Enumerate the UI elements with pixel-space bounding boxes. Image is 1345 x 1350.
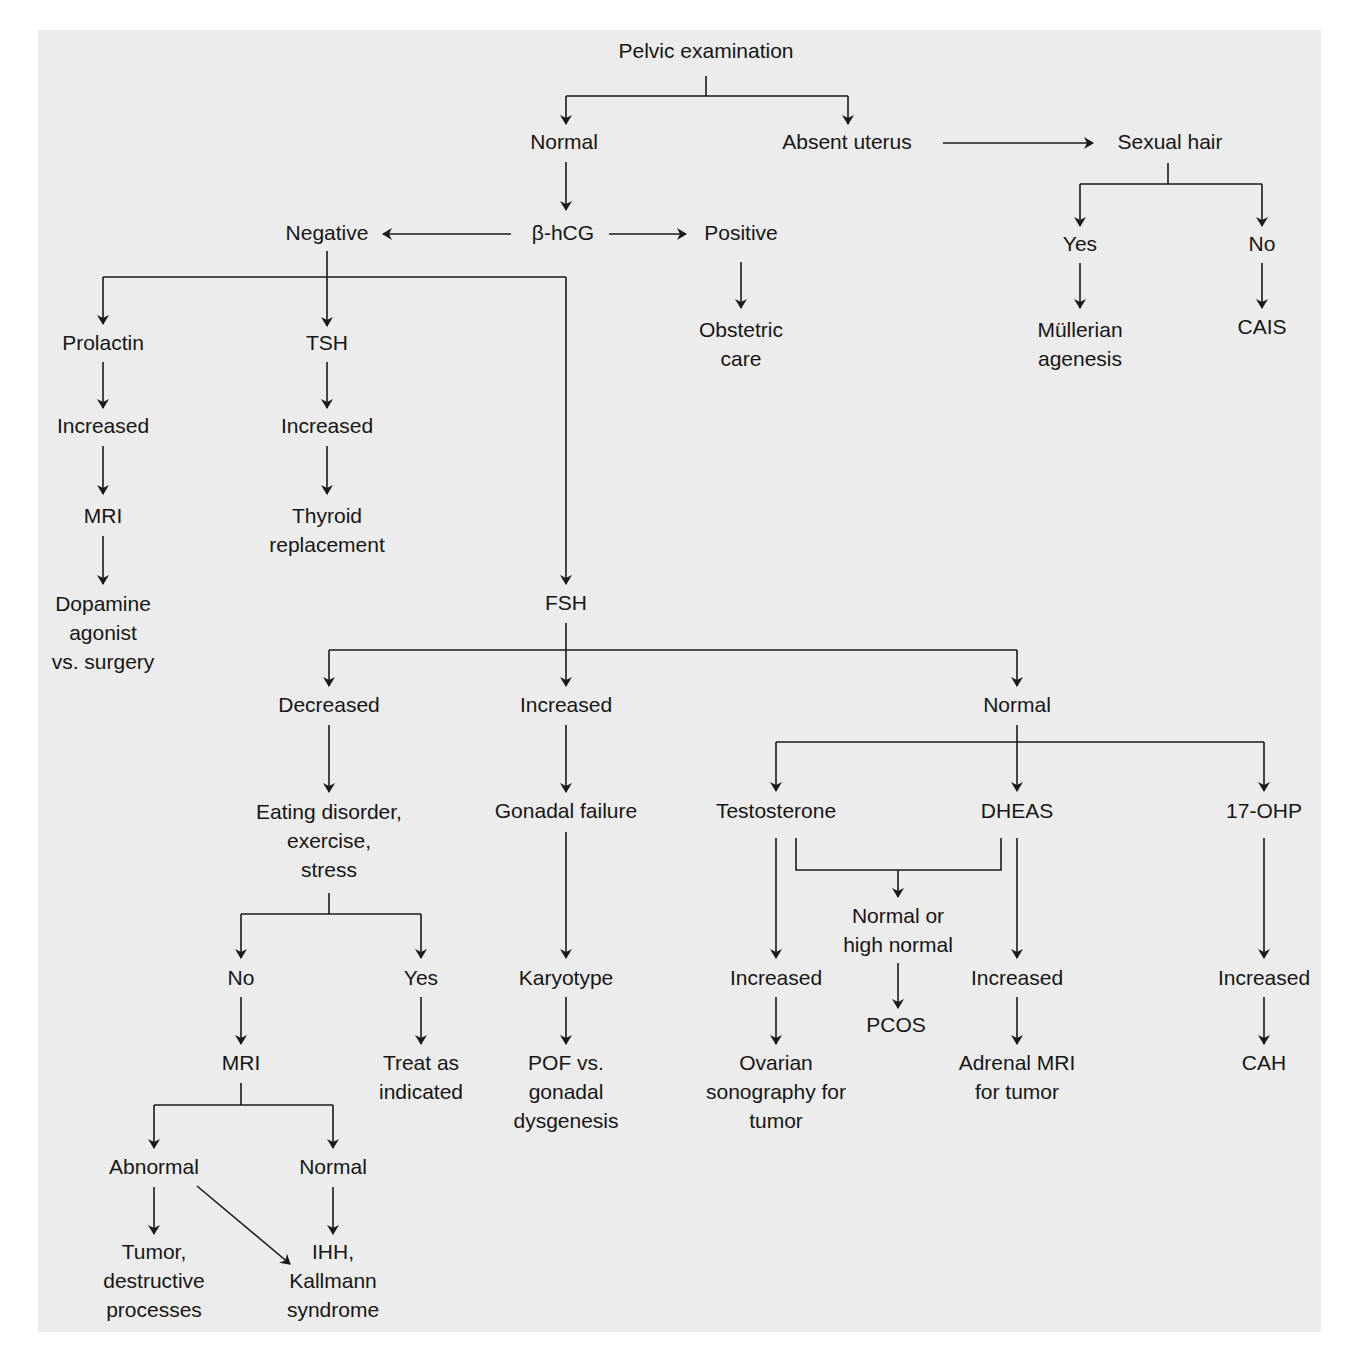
svg-text:Thyroid: Thyroid bbox=[292, 504, 362, 527]
svg-text:PCOS: PCOS bbox=[866, 1013, 926, 1036]
svg-text:sonography for: sonography for bbox=[706, 1080, 846, 1103]
svg-text:Adrenal MRI: Adrenal MRI bbox=[959, 1051, 1076, 1074]
svg-text:MRI: MRI bbox=[84, 504, 123, 527]
node-tumor-destructive: Tumor, destructive processes bbox=[103, 1240, 205, 1321]
node-cah: CAH bbox=[1242, 1051, 1286, 1074]
svg-text:for tumor: for tumor bbox=[975, 1080, 1059, 1103]
node-normal-exam: Normal bbox=[530, 130, 598, 153]
node-testosterone-increased: Increased bbox=[730, 966, 822, 989]
svg-text:agonist: agonist bbox=[69, 621, 137, 644]
svg-text:MRI: MRI bbox=[222, 1051, 261, 1074]
svg-text:Treat as: Treat as bbox=[383, 1051, 459, 1074]
node-fsh-normal: Normal bbox=[983, 693, 1051, 716]
node-fsh-decreased: Decreased bbox=[278, 693, 380, 716]
svg-text:Testosterone: Testosterone bbox=[716, 799, 836, 822]
svg-text:17-OHP: 17-OHP bbox=[1226, 799, 1302, 822]
svg-text:Prolactin: Prolactin bbox=[62, 331, 144, 354]
svg-text:CAIS: CAIS bbox=[1237, 315, 1286, 338]
node-positive: Positive bbox=[704, 221, 778, 244]
svg-text:indicated: indicated bbox=[379, 1080, 463, 1103]
svg-text:gonadal: gonadal bbox=[529, 1080, 604, 1103]
svg-text:DHEAS: DHEAS bbox=[981, 799, 1053, 822]
svg-text:Negative: Negative bbox=[286, 221, 369, 244]
svg-text:FSH: FSH bbox=[545, 591, 587, 614]
node-17-ohp-increased: Increased bbox=[1218, 966, 1310, 989]
svg-text:stress: stress bbox=[301, 858, 357, 881]
svg-text:Ovarian: Ovarian bbox=[739, 1051, 813, 1074]
node-pcos: PCOS bbox=[866, 1013, 926, 1036]
node-treat-as-indicated: Treat as indicated bbox=[379, 1051, 463, 1103]
node-sexual-hair-no: No bbox=[1249, 232, 1276, 255]
node-fsh-increased: Increased bbox=[520, 693, 612, 716]
node-dheas-increased: Increased bbox=[971, 966, 1063, 989]
svg-text:high normal: high normal bbox=[843, 933, 953, 956]
svg-text:replacement: replacement bbox=[269, 533, 385, 556]
svg-text:TSH: TSH bbox=[306, 331, 348, 354]
svg-text:Yes: Yes bbox=[1063, 232, 1097, 255]
node-gonadal-failure: Gonadal failure bbox=[495, 799, 637, 822]
svg-text:IHH,: IHH, bbox=[312, 1240, 354, 1263]
svg-text:processes: processes bbox=[106, 1298, 202, 1321]
svg-text:Increased: Increased bbox=[520, 693, 612, 716]
svg-text:Increased: Increased bbox=[730, 966, 822, 989]
svg-text:No: No bbox=[1249, 232, 1276, 255]
svg-text:vs. surgery: vs. surgery bbox=[52, 650, 155, 673]
node-absent-uterus: Absent uterus bbox=[782, 130, 912, 153]
svg-text:Sexual hair: Sexual hair bbox=[1117, 130, 1222, 153]
node-17-ohp: 17-OHP bbox=[1226, 799, 1302, 822]
node-normal-or-high-normal: Normal or high normal bbox=[843, 904, 953, 956]
node-eating-no: No bbox=[228, 966, 255, 989]
svg-text:syndrome: syndrome bbox=[287, 1298, 379, 1321]
svg-text:Normal: Normal bbox=[983, 693, 1051, 716]
svg-text:Kallmann: Kallmann bbox=[289, 1269, 377, 1292]
node-pelvic-examination: Pelvic examination bbox=[618, 39, 793, 62]
node-fsh: FSH bbox=[545, 591, 587, 614]
svg-text:Increased: Increased bbox=[1218, 966, 1310, 989]
svg-text:Dopamine: Dopamine bbox=[55, 592, 151, 615]
node-thyroid-replacement: Thyroid replacement bbox=[269, 504, 385, 556]
svg-text:Increased: Increased bbox=[281, 414, 373, 437]
node-dopamine-agonist: Dopamine agonist vs. surgery bbox=[52, 592, 155, 673]
svg-text:Gonadal failure: Gonadal failure bbox=[495, 799, 637, 822]
svg-text:Normal: Normal bbox=[530, 130, 598, 153]
node-mri-abnormal: Abnormal bbox=[109, 1155, 199, 1178]
node-cais: CAIS bbox=[1237, 315, 1286, 338]
svg-text:Tumor,: Tumor, bbox=[122, 1240, 187, 1263]
svg-text:Increased: Increased bbox=[971, 966, 1063, 989]
svg-text:Abnormal: Abnormal bbox=[109, 1155, 199, 1178]
svg-text:agenesis: agenesis bbox=[1038, 347, 1122, 370]
node-testosterone: Testosterone bbox=[716, 799, 836, 822]
node-adrenal-mri: Adrenal MRI for tumor bbox=[959, 1051, 1076, 1103]
svg-text:Eating disorder,: Eating disorder, bbox=[256, 800, 402, 823]
svg-text:Obstetric: Obstetric bbox=[699, 318, 783, 341]
svg-text:destructive: destructive bbox=[103, 1269, 205, 1292]
flowchart: Pelvic examination Normal Absent uterus … bbox=[0, 0, 1345, 1350]
svg-text:Pelvic examination: Pelvic examination bbox=[618, 39, 793, 62]
node-prolactin: Prolactin bbox=[62, 331, 144, 354]
svg-text:care: care bbox=[721, 347, 762, 370]
svg-text:Positive: Positive bbox=[704, 221, 778, 244]
svg-text:CAH: CAH bbox=[1242, 1051, 1286, 1074]
node-sexual-hair-yes: Yes bbox=[1063, 232, 1097, 255]
node-mullerian-agenesis: Müllerian agenesis bbox=[1037, 318, 1122, 370]
svg-text:exercise,: exercise, bbox=[287, 829, 371, 852]
svg-text:No: No bbox=[228, 966, 255, 989]
node-prolactin-increased: Increased bbox=[57, 414, 149, 437]
svg-text:Increased: Increased bbox=[57, 414, 149, 437]
node-no-mri: MRI bbox=[222, 1051, 261, 1074]
svg-text:Normal: Normal bbox=[299, 1155, 367, 1178]
node-ihh-kallmann: IHH, Kallmann syndrome bbox=[287, 1240, 379, 1321]
node-tsh-increased: Increased bbox=[281, 414, 373, 437]
svg-text:POF vs.: POF vs. bbox=[528, 1051, 604, 1074]
svg-text:tumor: tumor bbox=[749, 1109, 803, 1132]
svg-text:β-hCG: β-hCG bbox=[532, 221, 594, 244]
node-pof-gonadal-dysgenesis: POF vs. gonadal dysgenesis bbox=[513, 1051, 618, 1132]
node-obstetric-care: Obstetric care bbox=[699, 318, 783, 370]
node-mri-normal: Normal bbox=[299, 1155, 367, 1178]
node-prolactin-mri: MRI bbox=[84, 504, 123, 527]
node-dheas: DHEAS bbox=[981, 799, 1053, 822]
node-karyotype: Karyotype bbox=[519, 966, 614, 989]
node-negative: Negative bbox=[286, 221, 369, 244]
node-ovarian-sonography: Ovarian sonography for tumor bbox=[706, 1051, 846, 1132]
svg-text:dysgenesis: dysgenesis bbox=[513, 1109, 618, 1132]
